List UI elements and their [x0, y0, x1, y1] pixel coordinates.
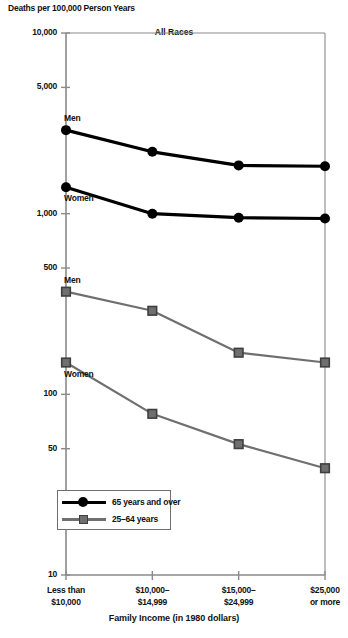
legend-swatch-circle-icon [62, 495, 106, 509]
x-axis-tick-2: $15,000–$24,999 [197, 584, 281, 608]
legend-swatch-square-icon [62, 512, 106, 526]
legend-item-25-64: 25–64 years [62, 511, 158, 527]
y-axis-tick-100: 100 [43, 388, 57, 398]
legend-label: 65 years and over [112, 497, 180, 507]
legend-item-65-and-over: 65 years and over [62, 494, 180, 510]
series-annotation-men-0: Men [64, 113, 80, 123]
chart-figure: Deaths per 100,000 Person Years All Race… [0, 0, 348, 638]
legend-label: 25–64 years [112, 514, 158, 524]
series-annotation-men-2: Men [64, 275, 80, 285]
y-axis-tick-10: 10 [48, 569, 57, 579]
y-axis-tick-5000: 5,000 [37, 81, 57, 91]
y-axis-tick-50: 50 [48, 443, 57, 453]
series-annotation-women-1: Women [64, 193, 94, 203]
y-axis-tick-10000: 10,000 [32, 27, 57, 37]
x-axis-tick-3: $25,000or more [283, 584, 348, 608]
x-axis-title: Family Income (in 1980 dollars) [0, 613, 348, 623]
x-axis-tick-0: Less than$10,000 [24, 584, 108, 608]
series-annotation-women-3: Women [64, 369, 94, 379]
y-axis-tick-500: 500 [43, 262, 57, 272]
y-axis-tick-1000: 1,000 [37, 208, 57, 218]
chart-legend: 65 years and over 25–64 years [57, 490, 171, 530]
plot-area [0, 0, 348, 638]
x-axis-tick-1: $10,000–$14,999 [110, 584, 194, 608]
